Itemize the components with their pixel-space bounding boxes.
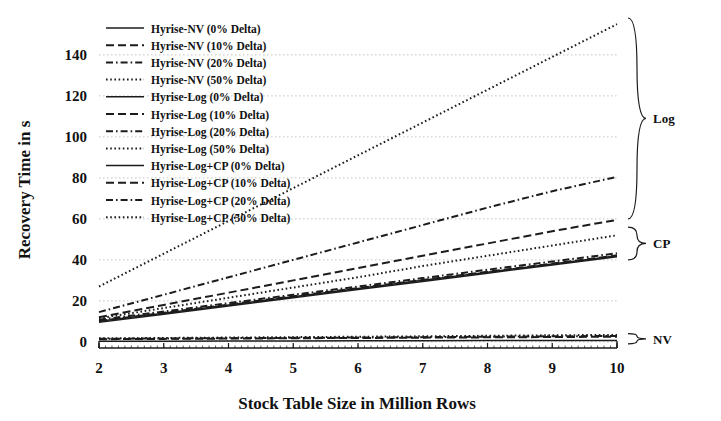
x-tick-label: 3 <box>160 360 168 376</box>
y-tick-label: 20 <box>72 293 87 309</box>
x-tick-label: 9 <box>549 360 557 376</box>
x-tick-label: 4 <box>225 360 233 376</box>
brace-label-cp: CP <box>653 236 670 251</box>
legend-label-3: Hyrise-NV (50% Delta) <box>151 74 267 87</box>
legend-label-1: Hyrise-NV (10% Delta) <box>151 40 267 53</box>
legend-label-9: Hyrise-Log+CP (10% Delta) <box>151 177 291 190</box>
x-tick-label: 2 <box>95 360 103 376</box>
x-tick-label: 5 <box>290 360 298 376</box>
y-tick-label: 60 <box>72 211 87 227</box>
legend-label-0: Hyrise-NV (0% Delta) <box>151 23 261 36</box>
y-tick-label: 40 <box>72 252 87 268</box>
series-line-0 <box>99 340 617 341</box>
x-tick-label: 6 <box>354 360 362 376</box>
y-tick-label: 0 <box>80 334 88 350</box>
x-tick-label: 7 <box>419 360 427 376</box>
legend-label-11: Hyrise-Log+CP (50% Delta) <box>151 212 291 225</box>
legend-label-7: Hyrise-Log (50% Delta) <box>151 143 269 156</box>
brace-label-nv: NV <box>653 332 672 347</box>
y-tick-label: 100 <box>65 129 88 145</box>
recovery-time-line-chart: 020406080100120140 2345678910 Recovery T… <box>0 0 721 421</box>
legend-label-8: Hyrise-Log+CP (0% Delta) <box>151 160 285 173</box>
legend-label-5: Hyrise-Log (10% Delta) <box>151 109 269 122</box>
y-tick-label: 80 <box>72 170 87 186</box>
y-tick-label: 120 <box>65 88 88 104</box>
x-axis-title: Stock Table Size in Million Rows <box>238 394 476 413</box>
x-tick-label: 10 <box>610 360 625 376</box>
legend-label-2: Hyrise-NV (20% Delta) <box>151 57 267 70</box>
brace-label-log: Log <box>653 111 675 126</box>
legend-label-6: Hyrise-Log (20% Delta) <box>151 126 269 139</box>
y-axis-title: Recovery Time in s <box>15 120 34 259</box>
y-tick-label: 140 <box>65 47 88 63</box>
legend-label-10: Hyrise-Log+CP (20% Delta) <box>151 195 291 208</box>
chart-figure: 020406080100120140 2345678910 Recovery T… <box>0 0 721 421</box>
x-tick-label: 8 <box>484 360 492 376</box>
legend-label-4: Hyrise-Log (0% Delta) <box>151 91 264 104</box>
